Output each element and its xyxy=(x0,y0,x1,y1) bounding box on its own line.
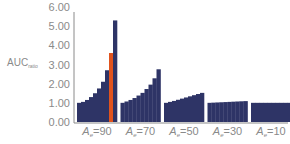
bar xyxy=(267,103,271,122)
x-group-label: Ae=30 xyxy=(212,125,242,138)
bar xyxy=(176,100,180,122)
x-group-label: Ae=10 xyxy=(255,125,285,138)
bar xyxy=(125,101,129,122)
bar xyxy=(113,20,117,122)
bar xyxy=(216,102,220,122)
bar xyxy=(85,100,89,122)
y-tick-label: 3.00 xyxy=(49,59,70,71)
bar xyxy=(192,95,196,122)
x-group-label: Ae=90 xyxy=(81,125,111,138)
bar xyxy=(212,103,216,122)
bar xyxy=(164,103,168,122)
y-tick-label: 1.00 xyxy=(49,97,70,109)
bar xyxy=(279,103,283,122)
auc-ratio-bar-chart: 0.001.002.003.004.005.006.00 AUCratio Ae… xyxy=(0,0,290,144)
y-axis-ticks: 0.001.002.003.004.005.006.00 xyxy=(49,1,70,128)
x-axis-labels: Ae=90Ae=70Ae=50Ae=30Ae=10 xyxy=(81,125,285,138)
bar xyxy=(81,102,85,122)
y-tick-label: 6.00 xyxy=(49,1,70,13)
bar xyxy=(283,103,287,122)
bar xyxy=(255,103,259,122)
bar xyxy=(172,101,176,122)
bar xyxy=(275,103,279,122)
bar xyxy=(97,88,101,122)
bar xyxy=(224,102,228,122)
y-tick-label: 0.00 xyxy=(49,116,70,128)
bar xyxy=(168,102,172,122)
y-tick-label: 2.00 xyxy=(49,78,70,90)
bar xyxy=(137,96,141,122)
bar xyxy=(184,97,188,122)
bar xyxy=(236,101,240,122)
bar xyxy=(259,103,263,122)
bar xyxy=(200,93,204,122)
bar xyxy=(133,98,137,122)
bar xyxy=(153,78,157,122)
bar-highlighted xyxy=(109,53,113,122)
bar xyxy=(77,103,81,122)
bar xyxy=(271,103,275,122)
bar xyxy=(220,102,224,122)
bar xyxy=(196,94,200,122)
bar xyxy=(121,103,125,122)
bar xyxy=(141,93,145,122)
bar xyxy=(105,70,109,122)
x-group-label: Ae=50 xyxy=(168,125,198,138)
bars xyxy=(77,20,290,122)
x-group-label: Ae=70 xyxy=(125,125,155,138)
bar xyxy=(101,82,105,122)
bar xyxy=(263,103,267,122)
bar xyxy=(188,96,192,122)
bar xyxy=(208,103,212,122)
bar xyxy=(129,100,133,122)
bar xyxy=(240,101,244,122)
y-tick-label: 5.00 xyxy=(49,20,70,32)
bar xyxy=(145,89,149,122)
y-tick-label: 4.00 xyxy=(49,39,70,51)
bar xyxy=(180,99,184,122)
bar xyxy=(232,102,236,122)
bar xyxy=(149,85,153,122)
bar xyxy=(93,93,97,122)
bar xyxy=(251,103,255,122)
y-axis-label: AUCratio xyxy=(7,57,38,69)
bar xyxy=(228,102,232,122)
bar xyxy=(244,101,248,122)
bar xyxy=(287,103,290,122)
bar xyxy=(89,97,93,122)
bar xyxy=(157,69,161,122)
